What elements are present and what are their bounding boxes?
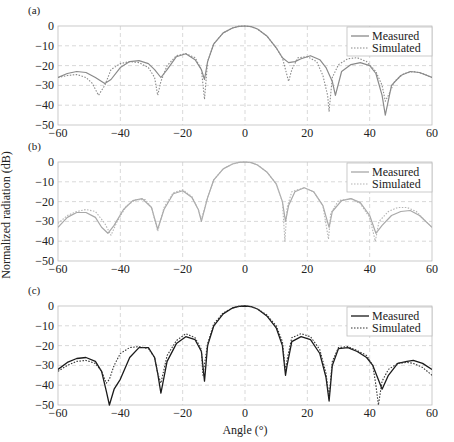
y-tick-label: 0 [48,155,54,169]
panel-c: (c)0−10−20−30−40−50−60−40−200204060Measu… [28,284,438,420]
y-tick-label: −10 [35,39,54,53]
x-tick-label: 20 [301,126,313,140]
panel-label: (c) [28,284,41,297]
x-tick-label: 60 [426,406,438,420]
y-tick-label: 0 [48,299,54,313]
x-tick-label: 60 [426,262,438,276]
y-tick-label: −20 [35,195,54,209]
figure-canvas: (a)0−10−20−30−40−50−60−40−200204060Measu… [0,0,454,442]
x-axis-label: Angle (°) [222,423,267,437]
legend: MeasuredSimulated [347,27,432,56]
x-tick-label: −60 [49,126,68,140]
panel-b: (b)0−10−20−30−40−50−60−40−200204060Measu… [28,140,438,276]
legend-label-simulated: Simulated [372,321,421,335]
panel-a: (a)0−10−20−30−40−50−60−40−200204060Measu… [28,4,438,140]
legend: MeasuredSimulated [347,163,432,192]
x-tick-label: 20 [301,262,313,276]
x-tick-label: −40 [111,262,130,276]
x-tick-label: 20 [301,406,313,420]
panel-label: (b) [28,140,41,153]
y-axis-label: Normalized radiation (dB) [0,151,13,278]
y-tick-label: −10 [35,319,54,333]
y-tick-label: −40 [35,234,54,248]
legend-label-simulated: Simulated [372,41,421,55]
y-tick-label: −10 [35,175,54,189]
y-tick-label: −40 [35,378,54,392]
x-tick-label: −60 [49,262,68,276]
x-tick-label: −20 [173,406,192,420]
x-tick-label: 40 [364,262,376,276]
panel-label: (a) [28,4,41,17]
x-tick-label: −60 [49,406,68,420]
x-tick-label: 40 [364,126,376,140]
x-tick-label: 40 [364,406,376,420]
x-tick-label: 0 [242,262,248,276]
x-tick-label: 0 [242,406,248,420]
y-tick-label: −30 [35,358,54,372]
x-tick-label: 0 [242,126,248,140]
y-tick-label: −20 [35,339,54,353]
x-tick-label: −40 [111,406,130,420]
x-tick-label: −40 [111,126,130,140]
x-tick-label: −20 [173,126,192,140]
y-tick-label: −20 [35,59,54,73]
y-tick-label: −40 [35,98,54,112]
figure: (a)0−10−20−30−40−50−60−40−200204060Measu… [0,0,454,442]
x-tick-label: 60 [426,126,438,140]
x-tick-label: −20 [173,262,192,276]
y-tick-label: 0 [48,19,54,33]
legend: MeasuredSimulated [347,307,432,336]
y-tick-label: −30 [35,78,54,92]
y-tick-label: −30 [35,214,54,228]
legend-label-simulated: Simulated [372,177,421,191]
